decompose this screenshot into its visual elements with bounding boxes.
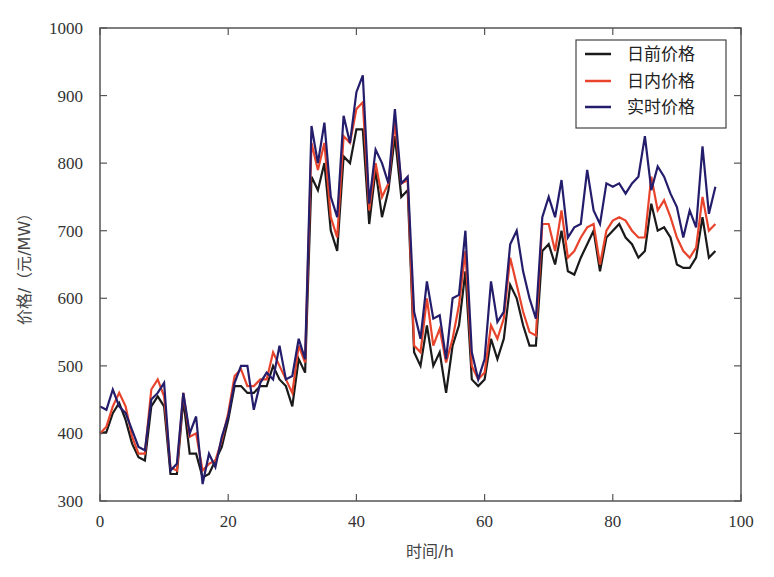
- series-layer: [100, 75, 715, 484]
- legend-label-realtime: 实时价格: [627, 97, 695, 117]
- y-tick-label: 300: [58, 492, 84, 511]
- y-tick-label: 800: [58, 154, 84, 173]
- x-tick-label: 20: [220, 512, 237, 531]
- x-tick-label: 0: [96, 512, 105, 531]
- legend: 日前价格 日内价格 实时价格: [576, 40, 726, 128]
- x-tick-label: 100: [728, 512, 754, 531]
- y-tick-label: 600: [58, 289, 84, 308]
- price-line-chart: 020406080100 3004005006007008009001000 时…: [0, 0, 774, 577]
- legend-label-day-ahead: 日前价格: [627, 44, 695, 64]
- y-tick-label: 500: [58, 357, 84, 376]
- x-tick-label: 40: [348, 512, 365, 531]
- series-line-1: [100, 102, 715, 470]
- legend-label-intraday: 日内价格: [627, 71, 695, 91]
- x-tick-label: 60: [476, 512, 493, 531]
- x-tick-labels: 020406080100: [96, 512, 754, 531]
- y-tick-labels: 3004005006007008009001000: [49, 19, 83, 511]
- y-tick-label: 900: [58, 87, 84, 106]
- x-axis-label: 时间/h: [406, 542, 454, 561]
- series-line-2: [100, 75, 715, 484]
- y-tick-label: 1000: [49, 19, 83, 38]
- x-tick-label: 80: [604, 512, 621, 531]
- y-tick-label: 700: [58, 222, 84, 241]
- y-axis-label: 价格/（元/MW）: [15, 205, 34, 325]
- y-tick-label: 400: [58, 424, 84, 443]
